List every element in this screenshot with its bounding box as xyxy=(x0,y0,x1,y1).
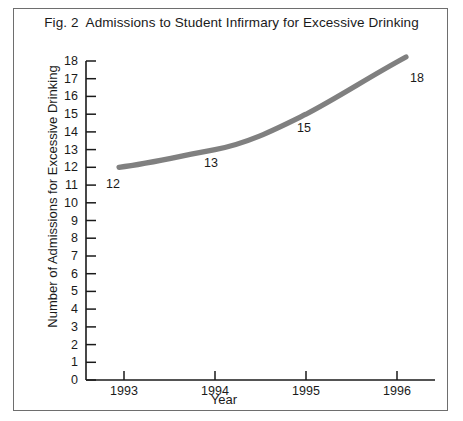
x-axis-title: Year xyxy=(59,392,389,407)
y-tick-label-0: 0 xyxy=(52,374,78,386)
y-tick-marks xyxy=(86,61,96,380)
data-point-label-1995: 15 xyxy=(297,121,311,135)
data-line-admissions xyxy=(119,57,406,167)
data-point-label-1994: 13 xyxy=(204,156,218,170)
y-tick-label-1: 1 xyxy=(52,356,78,368)
data-point-label-1993: 12 xyxy=(106,177,120,191)
chart-canvas xyxy=(14,9,449,412)
x-tick-marks xyxy=(124,371,397,380)
figure-frame: Fig. 2 Admissions to Student Infirmary f… xyxy=(13,8,448,411)
y-axis-title: Number of Admissions for Excessive Drink… xyxy=(45,37,60,357)
data-point-label-1996: 18 xyxy=(410,71,424,85)
plot-area: 18 17 16 15 14 13 12 11 10 9 8 7 6 5 4 3… xyxy=(14,9,449,412)
